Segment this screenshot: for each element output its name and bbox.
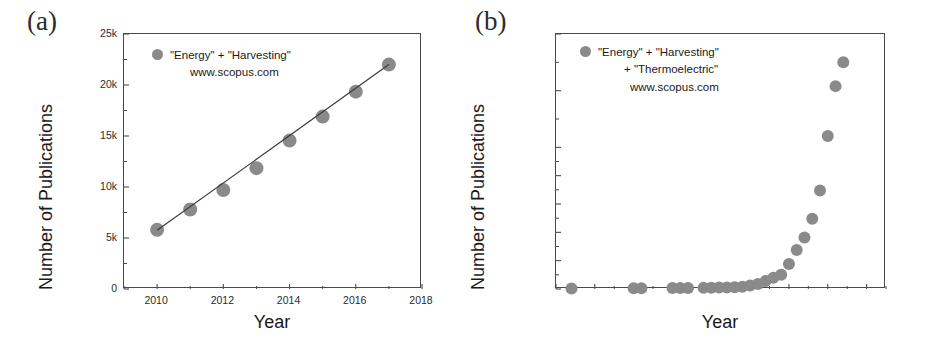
x-tick-label: 2012: [211, 294, 234, 306]
data-point: [382, 58, 396, 72]
panel-b-legend-marker-icon: [580, 46, 591, 57]
panel-b-label: (b): [475, 6, 506, 37]
y-tick-label: 10k: [75, 180, 117, 192]
data-point: [830, 80, 842, 92]
panel-b-y-axis-title: Number of Publications: [468, 104, 489, 290]
data-point: [635, 282, 647, 294]
panel-a-x-axis-title: Year: [123, 312, 421, 333]
panel-a-legend-line-1: "Energy" + "Harvesting": [170, 49, 291, 61]
data-point: [791, 244, 803, 256]
panel-a-y-axis-title: Number of Publications: [36, 104, 57, 290]
panel-a-legend-line-2: www.scopus.com: [190, 66, 279, 78]
data-point: [837, 56, 849, 68]
x-tick-label: 2016: [343, 294, 366, 306]
figure-publication-trends: (a) 05k10k15k20k25k 20102012201420162018…: [0, 0, 936, 344]
panel-b-x-axis-title: Year: [555, 312, 885, 333]
y-tick-label: 20k: [75, 78, 117, 90]
y-tick-label: 25k: [75, 27, 117, 39]
data-point: [798, 231, 810, 243]
y-tick-label: 5k: [75, 231, 117, 243]
y-tick-label: 0: [75, 282, 117, 294]
trend-line: [157, 65, 389, 231]
panel-a-legend: "Energy" + "Harvesting" www.scopus.com: [152, 47, 291, 82]
y-tick-label: 15k: [75, 129, 117, 141]
panel-a-legend-marker-icon: [152, 49, 163, 60]
data-point: [682, 282, 694, 294]
panel-b-legend-line-1: "Energy" + "Harvesting": [598, 46, 719, 58]
panel-a-label: (a): [27, 6, 57, 37]
panel-b: (b) 02505007501k1k2k2k 19801985199019952…: [468, 0, 936, 344]
x-tick-label: 2010: [144, 294, 167, 306]
data-point: [822, 130, 834, 142]
panel-a: (a) 05k10k15k20k25k 20102012201420162018…: [0, 0, 468, 344]
data-point: [783, 258, 795, 270]
x-tick-label: 2014: [277, 294, 300, 306]
data-point: [814, 184, 826, 196]
data-point: [566, 282, 578, 294]
data-point: [775, 269, 787, 281]
data-point: [806, 213, 818, 225]
panel-b-legend: "Energy" + "Harvesting" + "Thermoelectri…: [580, 44, 719, 96]
data-point: [216, 183, 230, 197]
x-tick-label: 2018: [409, 294, 432, 306]
panel-b-legend-line-2: + "Thermoelectric": [624, 63, 718, 75]
panel-b-legend-line-3: www.scopus.com: [630, 81, 719, 93]
